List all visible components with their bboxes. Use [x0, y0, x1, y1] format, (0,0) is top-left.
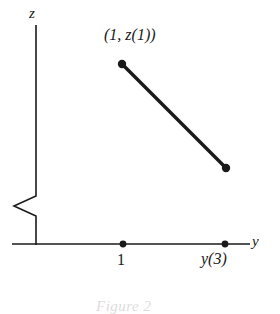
tick-label-1: 1: [117, 252, 125, 268]
tick-marker-y3: [222, 241, 229, 248]
y-axis-label: y: [252, 234, 259, 249]
tick-marker-1: [120, 241, 127, 248]
figure-caption: Figure 2: [96, 299, 152, 314]
point-annotation-label: (1, z(1)): [104, 27, 156, 43]
z-axis-label: z: [29, 6, 35, 21]
data-segment: [122, 64, 226, 168]
data-point-lower: [222, 164, 230, 172]
tick-label-y3: y(3): [201, 251, 227, 267]
axis-break-zigzag-icon: [14, 190, 36, 222]
data-point-upper: [118, 60, 126, 68]
